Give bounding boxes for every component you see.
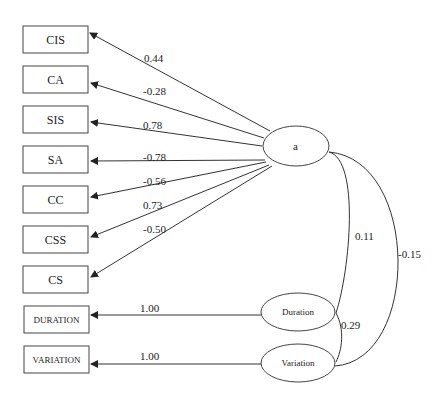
coef-sa: -0.78 <box>143 151 166 163</box>
cov-label-a-duration: 0.11 <box>355 230 374 242</box>
path-a-sis <box>91 122 262 146</box>
coef-cs: -0.50 <box>143 223 166 235</box>
path-a-css <box>91 165 269 237</box>
coef-ca: -0.28 <box>143 85 166 97</box>
cov-a-variation <box>329 152 398 366</box>
box-label: CC <box>47 193 63 207</box>
latent-a: a <box>263 126 329 166</box>
box-label: CSS <box>45 233 66 247</box>
box-label: VARIATION <box>33 355 81 365</box>
box-label: CIS <box>46 33 65 47</box>
box-sis: SIS <box>23 106 88 133</box>
path-a-sa <box>91 160 265 161</box>
latent-label: Variation <box>282 358 315 368</box>
latent-label: Duration <box>282 307 314 317</box>
box-label: CA <box>47 73 64 87</box>
box-css: CSS <box>23 226 88 253</box>
box-sa: SA <box>23 146 88 173</box>
box-ca: CA <box>23 66 88 93</box>
latent-duration: Duration <box>261 293 335 331</box>
coef-duration: 1.00 <box>140 302 160 314</box>
coef-cc: -0.56 <box>143 175 166 187</box>
box-cc: CC <box>23 186 88 213</box>
box-duration: DURATION <box>24 306 89 333</box>
path-diagram: CIS CA SIS SA CC CSS CS DURATION VARIATI… <box>0 0 441 396</box>
coef-cis: 0.44 <box>144 52 164 64</box>
box-variation: VARIATION <box>24 346 89 373</box>
box-label: SIS <box>47 113 64 127</box>
cov-label-a-variation: -0.15 <box>398 248 421 260</box>
path-a-cc <box>91 162 266 197</box>
coef-css: 0.73 <box>143 199 163 211</box>
path-a-cs <box>91 166 272 277</box>
box-label: DURATION <box>34 315 80 325</box>
coef-variation: 1.00 <box>140 350 160 362</box>
path-a-cis <box>90 33 270 131</box>
latent-variation: Variation <box>261 344 335 382</box>
box-cis: CIS <box>23 26 88 53</box>
latent-label: a <box>293 140 298 152</box>
box-label: SA <box>48 153 64 167</box>
cov-a-duration <box>329 152 349 313</box>
cov-label-duration-variation: 0.29 <box>341 319 361 331</box>
box-label: CS <box>48 273 63 287</box>
path-a-ca <box>91 83 264 138</box>
box-cs: CS <box>23 266 88 293</box>
coef-sis: 0.78 <box>143 119 163 131</box>
